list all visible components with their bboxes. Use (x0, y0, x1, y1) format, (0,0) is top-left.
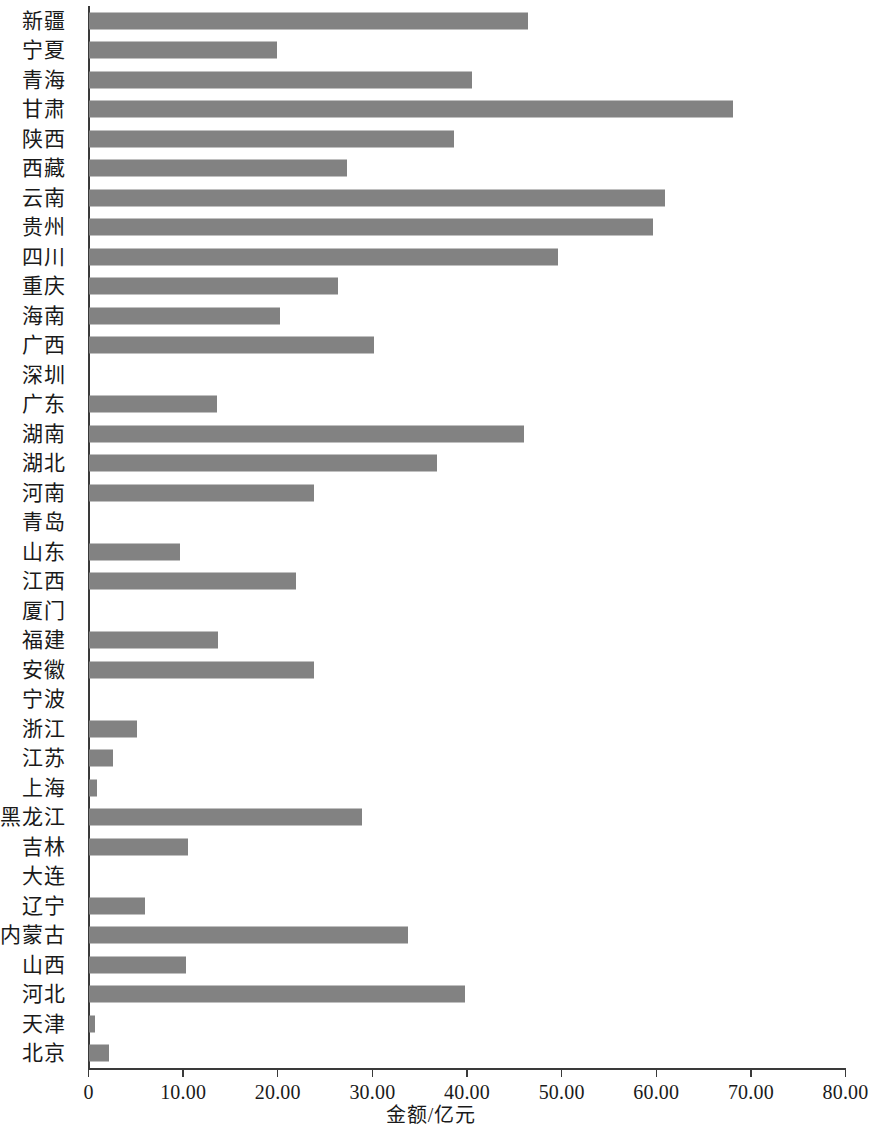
bar[interactable] (89, 160, 347, 177)
category-axis-label: 湖北 (22, 451, 66, 475)
value-axis-title: 金额/亿元 (0, 1104, 862, 1127)
bar-row[interactable]: 海南 (0, 301, 862, 331)
value-axis-tick-label: 10.00 (160, 1080, 206, 1104)
value-axis-tick (750, 1069, 751, 1077)
bar-row[interactable]: 福建 (0, 626, 862, 656)
category-axis-label: 江苏 (22, 746, 66, 770)
category-axis-label: 云南 (22, 186, 66, 210)
bar-row[interactable]: 河南 (0, 478, 862, 508)
category-axis-label: 山东 (22, 540, 66, 564)
bar[interactable] (89, 573, 296, 590)
category-axis-label: 天津 (22, 1012, 66, 1036)
category-axis-label: 海南 (22, 304, 66, 328)
bar[interactable] (89, 720, 137, 737)
bar[interactable] (89, 838, 188, 855)
category-axis-label: 安徽 (22, 658, 66, 682)
category-axis-label: 宁波 (22, 687, 66, 711)
bar-row[interactable]: 厦门 (0, 596, 862, 626)
bar[interactable] (89, 927, 408, 944)
value-axis-tick (561, 1069, 562, 1077)
category-axis-label: 吉林 (22, 835, 66, 859)
bar[interactable] (89, 1015, 95, 1032)
bar[interactable] (89, 396, 217, 413)
category-axis-label: 贵州 (22, 215, 66, 239)
bar[interactable] (89, 189, 665, 206)
bar[interactable] (89, 425, 524, 442)
bar[interactable] (89, 484, 314, 501)
bar-row[interactable]: 河北 (0, 980, 862, 1010)
bar-row[interactable]: 宁波 (0, 685, 862, 715)
bar[interactable] (89, 1045, 109, 1062)
bar-row[interactable]: 陕西 (0, 124, 862, 154)
bar-row[interactable]: 山西 (0, 950, 862, 980)
bar-row[interactable]: 湖南 (0, 419, 862, 449)
bar[interactable] (89, 307, 280, 324)
category-axis-label: 河北 (22, 982, 66, 1006)
bar-row[interactable]: 黑龙江 (0, 803, 862, 833)
bar[interactable] (89, 101, 733, 118)
bar-row[interactable]: 江苏 (0, 744, 862, 774)
bar[interactable] (89, 750, 113, 767)
bar-row[interactable]: 云南 (0, 183, 862, 213)
bar-row[interactable]: 北京 (0, 1039, 862, 1069)
bar-row[interactable]: 广西 (0, 331, 862, 361)
value-axis-tick (182, 1069, 183, 1077)
bar-row[interactable]: 新疆 (0, 6, 862, 36)
bar-row[interactable]: 山东 (0, 537, 862, 567)
bar-row[interactable]: 辽宁 (0, 891, 862, 921)
category-axis-label: 大连 (22, 864, 66, 888)
bar-row[interactable]: 内蒙古 (0, 921, 862, 951)
bar[interactable] (89, 661, 314, 678)
bar[interactable] (89, 130, 454, 147)
bar-row[interactable]: 广东 (0, 390, 862, 420)
bar-row[interactable]: 四川 (0, 242, 862, 272)
bar[interactable] (89, 543, 180, 560)
category-axis-label: 厦门 (22, 599, 66, 623)
bar[interactable] (89, 42, 277, 59)
bar-row[interactable]: 西藏 (0, 154, 862, 184)
bar-row[interactable]: 大连 (0, 862, 862, 892)
value-axis-tick-label: 20.00 (255, 1080, 301, 1104)
category-axis-label: 青海 (22, 68, 66, 92)
bar[interactable] (89, 956, 186, 973)
value-axis-tick (88, 1069, 89, 1077)
bar[interactable] (89, 219, 653, 236)
bar[interactable] (89, 455, 437, 472)
bar[interactable] (89, 337, 374, 354)
category-axis-label: 西藏 (22, 156, 66, 180)
bar-row[interactable]: 上海 (0, 773, 862, 803)
bar-row[interactable]: 重庆 (0, 272, 862, 302)
bar[interactable] (89, 12, 528, 29)
bar-row[interactable]: 江西 (0, 567, 862, 597)
bar-row[interactable]: 青海 (0, 65, 862, 95)
bar[interactable] (89, 71, 472, 88)
bar[interactable] (89, 248, 558, 265)
category-axis-label: 青岛 (22, 510, 66, 534)
bar-row[interactable]: 浙江 (0, 714, 862, 744)
category-axis-label: 陕西 (22, 127, 66, 151)
bar[interactable] (89, 897, 145, 914)
category-axis-label: 河南 (22, 481, 66, 505)
category-axis-label: 江西 (22, 569, 66, 593)
bar[interactable] (89, 632, 218, 649)
bar-row[interactable]: 天津 (0, 1009, 862, 1039)
bar[interactable] (89, 986, 465, 1003)
bar-row[interactable]: 湖北 (0, 449, 862, 479)
bar-row[interactable]: 青岛 (0, 508, 862, 538)
bar-row[interactable]: 深圳 (0, 360, 862, 390)
bar-row[interactable]: 贵州 (0, 213, 862, 243)
plot-area: 新疆宁夏青海甘肃陕西西藏云南贵州四川重庆海南广西深圳广东湖南湖北河南青岛山东江西… (0, 0, 862, 1069)
value-axis-tick-label: 80.00 (823, 1080, 869, 1104)
bar-row[interactable]: 吉林 (0, 832, 862, 862)
category-axis-label: 甘肃 (22, 97, 66, 121)
bar[interactable] (89, 779, 97, 796)
bar-row[interactable]: 甘肃 (0, 95, 862, 125)
bar-row[interactable]: 安徽 (0, 655, 862, 685)
value-axis-tick-label: 0 (83, 1080, 93, 1104)
category-axis-label: 辽宁 (22, 894, 66, 918)
category-axis-label: 宁夏 (22, 38, 66, 62)
category-axis-label: 内蒙古 (0, 923, 66, 947)
bar[interactable] (89, 278, 338, 295)
bar-row[interactable]: 宁夏 (0, 36, 862, 66)
bar[interactable] (89, 809, 362, 826)
